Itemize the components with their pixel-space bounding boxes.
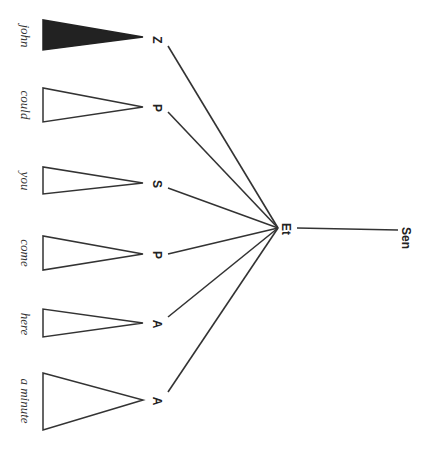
node-label-a2: A [150, 397, 164, 406]
tree-diagram: Z P S P A A Et Sen john could you come h… [0, 0, 438, 450]
triangle-come [43, 236, 143, 270]
word-a-minute: a minute [18, 378, 33, 423]
tree-svg: Z P S P A A Et Sen john could you come h… [0, 0, 438, 450]
triangle-a-minute [43, 373, 143, 430]
edge-et-a2 [168, 228, 278, 392]
edge-et-s [168, 188, 278, 228]
triangle-here [43, 309, 143, 337]
edge-et-sen [297, 228, 398, 230]
triangle-you [43, 167, 143, 194]
triangle-john [43, 20, 143, 50]
triangle-could [43, 88, 143, 122]
word-here: here [18, 313, 33, 336]
node-label-a1: A [150, 320, 164, 329]
node-label-et: Et [279, 223, 293, 235]
word-come: come [18, 239, 33, 267]
edge-et-z [168, 46, 278, 228]
word-you: you [18, 170, 33, 191]
node-label-p2: P [150, 251, 164, 259]
node-label-s: S [150, 180, 164, 188]
node-label-z: Z [150, 36, 164, 43]
node-label-sen: Sen [399, 227, 413, 249]
node-label-p1: P [150, 104, 164, 112]
edge-et-p1 [168, 112, 278, 228]
word-john: john [18, 22, 33, 47]
word-could: could [18, 91, 33, 120]
